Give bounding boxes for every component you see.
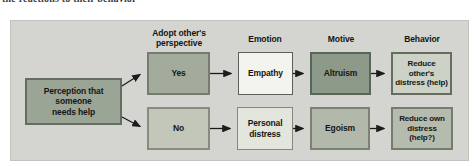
clipped-body-text: the reactions to their behavior <box>2 0 222 6</box>
header-adopt-perspective: Adopt other's perspective <box>137 28 221 48</box>
header-behavior: Behavior <box>380 34 464 44</box>
node-egoism: Egoism <box>310 107 370 150</box>
node-altruism: Altruism <box>310 52 371 95</box>
figure-page: the reactions to their behavior Adopt ot… <box>0 0 476 166</box>
node-personal-distress: Personal distress <box>237 107 293 150</box>
node-perception: Perception that someone needs help <box>25 78 122 125</box>
node-yes: Yes <box>147 52 210 95</box>
header-motive: Motive <box>299 34 383 44</box>
header-emotion: Emotion <box>223 34 307 44</box>
node-reduce-own-distress: Reduce own distress (help?) <box>391 107 453 150</box>
node-no: No <box>147 107 210 150</box>
node-empathy: Empathy <box>238 52 293 95</box>
node-reduce-others-distress: Reduce other's distress (help) <box>391 52 452 95</box>
clipped-body-text-line: the reactions to their behavior <box>2 0 222 4</box>
